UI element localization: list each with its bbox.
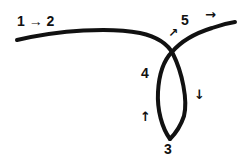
label-bottom: 3	[164, 142, 172, 156]
label-left-side: 4	[141, 66, 149, 80]
label-start: 1 → 2	[17, 14, 54, 28]
arrow-down-icon: ↓	[194, 88, 205, 101]
arrow-exit-icon: →	[205, 8, 216, 21]
arrow-up-icon: ↑	[140, 110, 151, 123]
label-crossing: 5	[181, 13, 189, 27]
arrow-near-crossing-icon: ↗	[168, 27, 178, 39]
